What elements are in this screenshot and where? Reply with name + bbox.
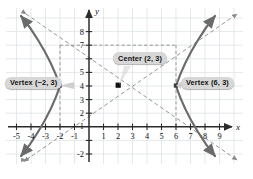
x-tick-label: -3 — [42, 132, 49, 141]
x-tick-label: 3 — [130, 132, 134, 141]
y-tick-label: 4 — [80, 82, 85, 91]
x-tick-label: 7 — [188, 132, 192, 141]
y-tick-label: 1 — [80, 122, 84, 131]
y-tick-label: 3 — [80, 96, 84, 105]
left-branch-lower — [21, 86, 60, 156]
callout-vertex-left: Vertex (−2, 3) — [5, 77, 62, 89]
x-tick-label: 5 — [159, 132, 163, 141]
pointer-center — [119, 66, 131, 85]
pointer-vertex-left — [60, 82, 74, 89]
asymptote-arrow-lower-left — [24, 157, 30, 162]
callout-center-label: Center (2, 3) — [118, 55, 162, 62]
x-tick-label: 6 — [174, 132, 178, 141]
y-tick-label: 8 — [80, 28, 84, 37]
x-axis-label: x — [235, 122, 240, 132]
y-tick-labels: 8 7 5 4 3 2 1 -2 — [77, 28, 85, 159]
left-branch-upper — [21, 16, 60, 86]
x-tick-label: -1 — [71, 132, 78, 141]
y-tick-label: -2 — [77, 150, 84, 159]
callout-vertex-right-label: Vertex (6, 3) — [186, 79, 229, 86]
callout-center: Center (2, 3) — [113, 52, 167, 64]
y-tick-label: 2 — [80, 109, 84, 118]
y-tick-label: 5 — [80, 68, 84, 77]
hyperbola-figure: y x -5 -4 -3 -2 -1 1 2 3 4 5 6 7 8 9 8 7… — [0, 0, 253, 179]
x-tick-label: 2 — [116, 132, 120, 141]
y-axis-label: y — [94, 6, 99, 16]
x-tick-label: 9 — [217, 132, 221, 141]
x-tick-label: -2 — [57, 132, 64, 141]
graph-canvas: y x -5 -4 -3 -2 -1 1 2 3 4 5 6 7 8 9 8 7… — [0, 0, 253, 179]
x-tick-labels: -5 -4 -3 -2 -1 1 2 3 4 5 6 7 8 9 — [13, 132, 222, 141]
right-branch-upper — [176, 16, 215, 86]
x-tick-label: 8 — [203, 132, 207, 141]
x-tick-label: 4 — [145, 132, 150, 141]
callout-vertex-right: Vertex (6, 3) — [181, 77, 234, 89]
x-tick-label: 1 — [101, 132, 105, 141]
equation-fragment — [120, 168, 253, 179]
x-tick-label: -5 — [13, 132, 20, 141]
callout-vertex-left-label: Vertex (−2, 3) — [10, 79, 57, 86]
right-branch-lower — [176, 86, 215, 156]
y-tick-label: 7 — [80, 41, 84, 50]
x-tick-label: -4 — [28, 132, 36, 141]
